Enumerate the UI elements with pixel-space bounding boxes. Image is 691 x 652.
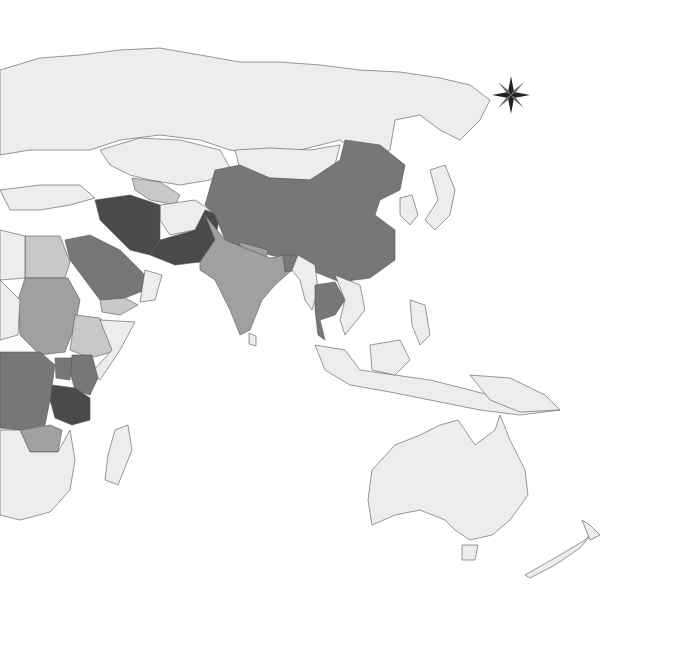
region-philippines [410,300,430,345]
region-borneo [370,340,410,375]
region-kazakhstan [100,138,230,185]
region-dr-congo [0,352,55,430]
region-madagascar [105,425,132,485]
compass-rose-icon [492,76,530,114]
region-australia [368,415,528,540]
region-turkey [0,185,95,210]
region-uganda [55,358,72,380]
region-new-zealand [525,530,595,578]
region-russia [0,48,490,160]
region-yemen [100,298,138,315]
region-north-africa [0,230,25,280]
region-japan [425,165,455,230]
region-egypt [25,236,70,278]
region-new-zealand-north [582,520,600,540]
region-korea [400,195,418,225]
region-tasmania [462,545,478,560]
region-thailand [315,282,345,340]
region-chad [0,280,20,340]
region-sri-lanka [249,333,256,346]
choropleth-map [0,0,691,652]
